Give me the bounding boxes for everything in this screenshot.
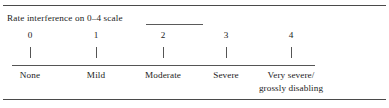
scale-number: 1 (66, 30, 126, 41)
scale-tick-icon (30, 47, 31, 58)
scale-label-line1: Mild (87, 70, 105, 80)
top-rule (3, 5, 386, 6)
scale-baseline-rule (12, 65, 315, 66)
scale-label-line2: grossly disabling (259, 83, 323, 93)
fill-in-blank-line[interactable] (146, 24, 203, 25)
scale-number: 3 (196, 30, 256, 41)
scale-label-line1: Very severe/ (268, 70, 315, 80)
scale-number: 4 (261, 30, 321, 41)
scale-label: Very severe/ grossly disabling (236, 69, 346, 94)
scale-tick-icon (291, 47, 292, 58)
scale-number: 0 (0, 30, 60, 41)
rating-scale-figure: Rate interference on 0–4 scale 0 None 1 … (0, 0, 389, 108)
scale-label-line1: None (20, 70, 40, 80)
scale-tick-icon (163, 47, 164, 58)
scale-tick-icon (226, 47, 227, 58)
scale-number: 2 (133, 30, 193, 41)
scale-tick-icon (96, 47, 97, 58)
prompt-text: Rate interference on 0–4 scale (7, 13, 123, 23)
bottom-rule (3, 99, 386, 100)
scale-label-line1: Severe (213, 70, 239, 80)
